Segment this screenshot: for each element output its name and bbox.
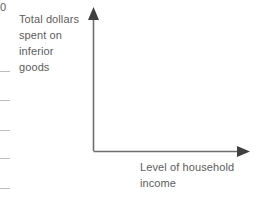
x-axis-label: Level of household income (140, 159, 256, 191)
y-axis-label: Total dollars spent on inferior goods (19, 11, 95, 75)
page-edge-tick (0, 100, 10, 101)
x-axis-arrowhead-icon (237, 146, 250, 157)
page-edge-tick (0, 71, 10, 72)
page-edge-tick (0, 188, 10, 189)
page-edge-tick (0, 158, 10, 159)
economics-axes-figure: Total dollars spent on inferior goods Le… (0, 0, 256, 197)
page-edge-tick (0, 130, 10, 131)
